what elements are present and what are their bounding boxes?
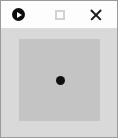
title-bar	[1, 1, 117, 29]
app-menu-button[interactable]	[3, 1, 33, 28]
inner-panel[interactable]	[19, 39, 100, 121]
application-window	[0, 0, 118, 138]
close-button[interactable]	[81, 1, 111, 28]
play-circle-icon	[12, 8, 25, 21]
center-dot-marker[interactable]	[56, 76, 65, 85]
square-outline-icon	[55, 10, 65, 20]
close-x-icon	[90, 9, 102, 21]
canvas-area[interactable]	[1, 29, 117, 137]
maximize-button[interactable]	[45, 1, 75, 28]
